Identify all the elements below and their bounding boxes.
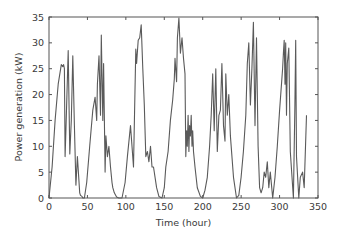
y-tick-label: 20 — [32, 89, 44, 100]
y-tick-label: 30 — [32, 37, 44, 48]
x-axis-label: Time (hour) — [155, 217, 211, 228]
plot-frame — [49, 17, 318, 198]
x-tick-label: 150 — [155, 201, 173, 212]
x-tick-label: 300 — [271, 201, 289, 212]
power-generation-series-line — [49, 18, 307, 198]
y-axis-label: Power generation (kW) — [13, 53, 24, 162]
power-generation-line-chart: 050100150200250300350 05101520253035 Tim… — [0, 0, 341, 240]
y-tick-label: 10 — [32, 141, 44, 152]
x-tick-label: 200 — [194, 201, 212, 212]
x-tick-label: 100 — [117, 201, 135, 212]
x-tick-label: 350 — [309, 201, 327, 212]
y-tick-label: 25 — [32, 63, 44, 74]
y-axis-tick-labels: 05101520253035 — [32, 12, 44, 204]
y-tick-label: 5 — [38, 167, 44, 178]
x-tick-label: 250 — [232, 201, 250, 212]
y-axis-ticks — [49, 17, 318, 198]
x-axis-tick-labels: 050100150200250300350 — [46, 201, 327, 212]
x-tick-label: 50 — [81, 201, 93, 212]
plot-area — [49, 17, 318, 198]
y-tick-label: 0 — [38, 193, 44, 204]
x-tick-label: 0 — [46, 201, 52, 212]
y-tick-label: 15 — [32, 115, 44, 126]
y-tick-label: 35 — [32, 12, 44, 23]
x-axis-ticks — [49, 17, 318, 198]
